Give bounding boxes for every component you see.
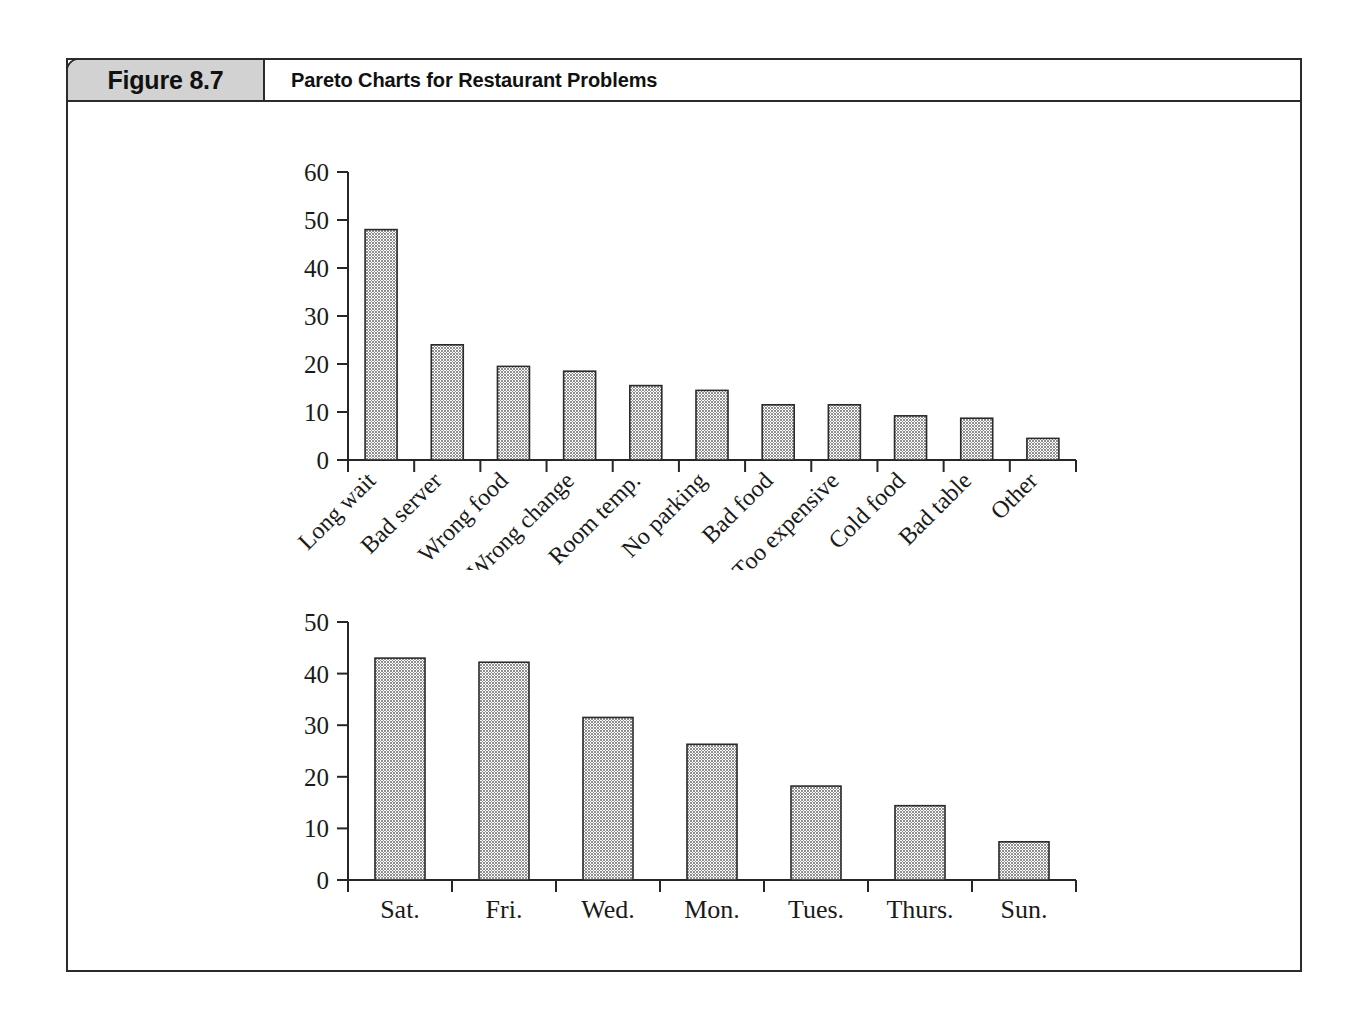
- figure-header: Figure 8.7 Pareto Charts for Restaurant …: [66, 58, 1302, 102]
- figure-title-label: Pareto Charts for Restaurant Problems: [291, 69, 657, 92]
- x-axis-tick-label: Thurs.: [886, 895, 953, 924]
- bar: [687, 744, 737, 880]
- bar: [375, 658, 425, 880]
- y-axis-tick-label: 40: [304, 255, 329, 282]
- figure-number-cell: Figure 8.7: [68, 60, 265, 100]
- x-axis-tick-label: Tues.: [788, 895, 844, 924]
- y-axis-tick-label: 20: [304, 764, 329, 791]
- x-axis-tick-label: Sun.: [1001, 895, 1048, 924]
- y-axis-tick-label: 0: [317, 867, 330, 894]
- y-axis-tick-label: 0: [317, 447, 330, 474]
- y-axis-tick-label: 50: [304, 609, 329, 636]
- bar: [497, 366, 529, 460]
- pareto-chart-problems: 0102030405060Long waitBad serverWrong fo…: [270, 140, 1100, 570]
- bar: [762, 405, 794, 460]
- x-axis-tick-label: Other: [985, 467, 1042, 524]
- bar: [895, 806, 945, 880]
- bar: [630, 386, 662, 460]
- x-axis-tick-label: Bad table: [893, 467, 976, 550]
- pareto-chart-days: 01020304050Sat.Fri.Wed.Mon.Tues.Thurs.Su…: [270, 595, 1100, 935]
- figure-title-cell: Pareto Charts for Restaurant Problems: [265, 60, 1300, 100]
- pareto-chart-days-svg: 01020304050Sat.Fri.Wed.Mon.Tues.Thurs.Su…: [270, 595, 1100, 935]
- y-axis-tick-label: 40: [304, 661, 329, 688]
- x-axis-tick-label: Fri.: [486, 895, 523, 924]
- y-axis-tick-label: 20: [304, 351, 329, 378]
- bar: [583, 717, 633, 880]
- y-axis-tick-label: 10: [304, 399, 329, 426]
- y-axis-tick-label: 10: [304, 815, 329, 842]
- x-axis-tick-label: Wed.: [581, 895, 635, 924]
- pareto-chart-problems-svg: 0102030405060Long waitBad serverWrong fo…: [270, 140, 1100, 570]
- figure-number-label: Figure 8.7: [107, 66, 223, 95]
- bar: [999, 842, 1049, 880]
- bar: [479, 662, 529, 880]
- bar: [431, 345, 463, 460]
- bar: [895, 416, 927, 460]
- bar: [564, 371, 596, 460]
- y-axis-tick-label: 60: [304, 159, 329, 186]
- x-axis-tick-label: Sat.: [380, 895, 420, 924]
- bar: [1027, 438, 1059, 460]
- bar: [791, 786, 841, 880]
- bar: [696, 390, 728, 460]
- y-axis-tick-label: 50: [304, 207, 329, 234]
- bar: [961, 418, 993, 460]
- bar: [365, 230, 397, 460]
- x-axis-tick-label: Mon.: [684, 895, 740, 924]
- bar: [828, 405, 860, 460]
- y-axis-tick-label: 30: [304, 712, 329, 739]
- y-axis-tick-label: 30: [304, 303, 329, 330]
